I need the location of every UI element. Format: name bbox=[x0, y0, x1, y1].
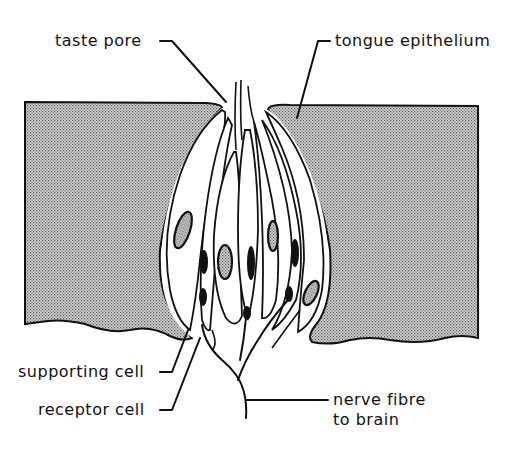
label-nerve-fibre: nerve fibre bbox=[333, 390, 426, 409]
receptor-nucleus bbox=[200, 250, 208, 274]
receptor-nucleus bbox=[243, 306, 251, 320]
leader-taste-pore bbox=[160, 41, 226, 102]
label-to-brain: to brain bbox=[333, 410, 399, 429]
receptor-nucleus bbox=[285, 286, 293, 302]
label-taste-pore: taste pore bbox=[55, 31, 142, 50]
label-tongue-epithelium: tongue epithelium bbox=[335, 31, 490, 50]
receptor-nucleus bbox=[291, 239, 299, 267]
receptor-nucleus bbox=[247, 246, 255, 280]
supporting-cell-nucleus bbox=[268, 221, 278, 251]
taste-bud-diagram: taste pore tongue epithelium supporting … bbox=[0, 0, 525, 457]
receptor-nucleus bbox=[199, 288, 207, 306]
supporting-cell-nucleus bbox=[218, 245, 232, 279]
label-supporting-cell: supporting cell bbox=[18, 362, 144, 381]
label-receptor-cell: receptor cell bbox=[38, 400, 145, 419]
